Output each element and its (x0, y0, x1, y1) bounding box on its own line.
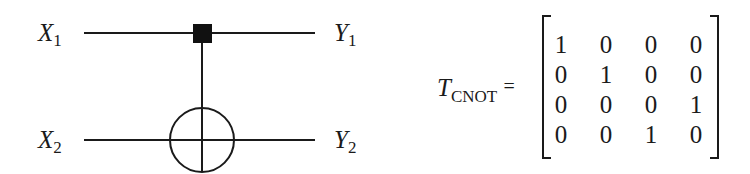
matrix-cell: 1 (549, 32, 573, 57)
matrix-cell: 0 (549, 62, 573, 87)
matrix-cell: 0 (594, 32, 618, 57)
matrix-label: TCNOT = (437, 75, 515, 105)
matrix-cell: 0 (594, 122, 618, 147)
matrix-cell: 0 (684, 32, 708, 57)
input-label-x1: X1 (38, 20, 62, 49)
matrix-cell: 0 (684, 122, 708, 147)
output-label-y1: Y1 (334, 20, 356, 49)
right-bracket-icon (710, 16, 718, 158)
matrix-cell: 1 (594, 62, 618, 87)
output-label-y2: Y2 (334, 127, 356, 156)
matrix-cell: 0 (639, 32, 663, 57)
input-label-x2: X2 (38, 127, 62, 156)
matrix-subscript: CNOT (451, 87, 497, 106)
matrix-cell: 1 (684, 92, 708, 117)
cnot-diagram (0, 0, 750, 174)
control-square-icon (193, 24, 212, 43)
matrix-cell: 0 (639, 92, 663, 117)
matrix-cell: 1 (639, 122, 663, 147)
matrix-cell: 0 (549, 92, 573, 117)
matrix-cell: 0 (639, 62, 663, 87)
matrix-cell: 0 (594, 92, 618, 117)
matrix-cell: 0 (684, 62, 708, 87)
matrix-symbol: T (437, 74, 451, 101)
matrix-cell: 0 (549, 122, 573, 147)
equals-sign: = (503, 75, 514, 97)
